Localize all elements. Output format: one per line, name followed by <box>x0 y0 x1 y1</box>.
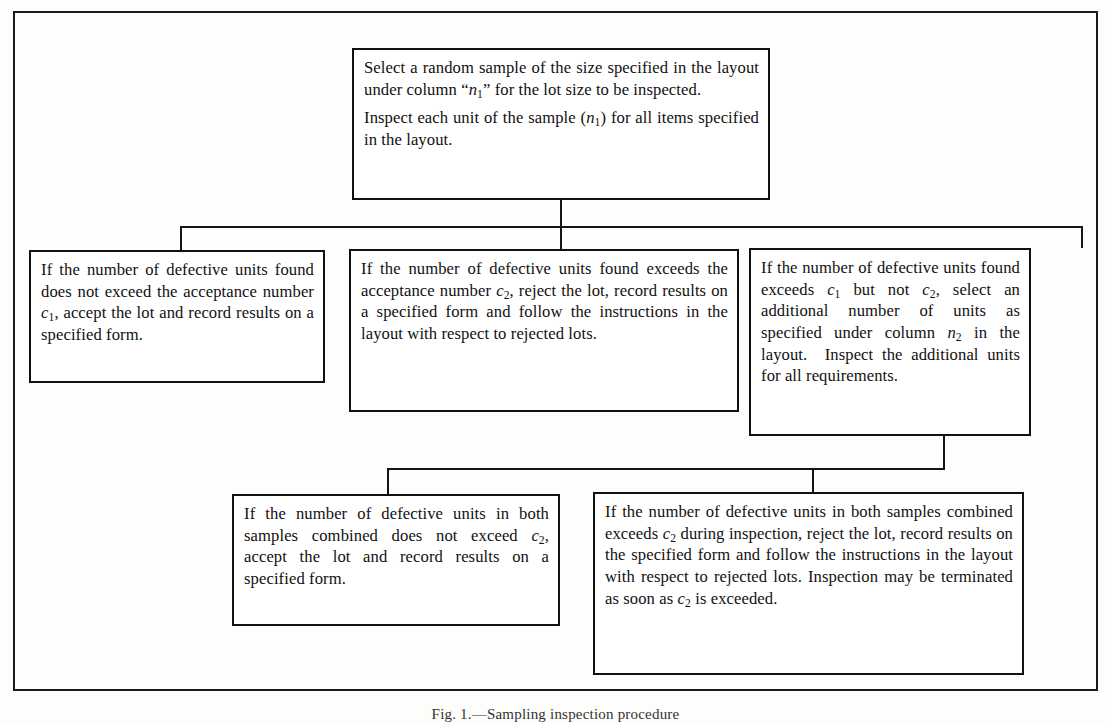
connector-to-reject-box <box>560 226 562 249</box>
figure-caption: Fig. 1.—Sampling inspection procedure <box>0 706 1111 723</box>
connector-to-accept2-box <box>387 468 389 494</box>
node-select-sample-paragraph-1: Select a random sample of the size speci… <box>364 57 759 100</box>
node-accept-lot: If the number of defective units found d… <box>29 250 325 383</box>
connector-level1-bus <box>180 226 1083 228</box>
connector-level2-bus <box>387 468 945 470</box>
node-accept-lot-combined-text: If the number of defective units in both… <box>244 503 549 590</box>
page-background: Select a random sample of the size speci… <box>0 0 1111 723</box>
connector-root-stem <box>560 200 562 228</box>
node-reject-lot-combined-text: If the number of defective units in both… <box>605 501 1013 609</box>
connector-resample-stem <box>943 436 945 470</box>
node-select-sample: Select a random sample of the size speci… <box>352 48 770 200</box>
node-reject-lot: If the number of defective units found e… <box>349 249 739 412</box>
node-second-sample: If the number of defective units found e… <box>749 248 1031 436</box>
connector-to-resample-box <box>1081 226 1083 248</box>
node-accept-lot-text: If the number of defective units found d… <box>41 259 314 346</box>
node-second-sample-text: If the number of defective units found e… <box>761 257 1020 387</box>
node-accept-lot-combined: If the number of defective units in both… <box>232 494 560 626</box>
node-reject-lot-text: If the number of defective units found e… <box>361 258 728 345</box>
node-select-sample-paragraph-2: Inspect each unit of the sample (n1) for… <box>364 107 759 150</box>
connector-to-accept-box <box>180 226 182 250</box>
connector-to-reject2-box <box>812 468 814 492</box>
node-reject-lot-combined: If the number of defective units in both… <box>593 492 1024 675</box>
